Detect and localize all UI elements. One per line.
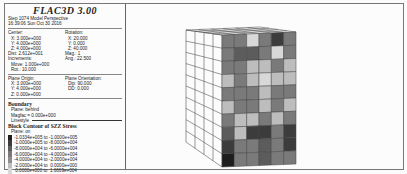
model-zone xyxy=(247,60,259,74)
model-zone xyxy=(284,85,296,99)
model-zone xyxy=(271,33,283,47)
model-zone xyxy=(234,140,246,154)
model-zone xyxy=(284,32,296,46)
model-zone xyxy=(234,60,246,74)
legend-label: -8.0000e+004 to -6.0000e+004 xyxy=(14,146,77,151)
model-zone xyxy=(234,126,246,140)
plane-dd: DD: 0.000 xyxy=(65,86,122,91)
model-zone xyxy=(284,98,296,112)
model-zone xyxy=(259,125,271,139)
model-zone xyxy=(259,33,271,47)
grid-line xyxy=(186,27,260,30)
model-zone xyxy=(222,35,234,49)
legend-swatch xyxy=(8,168,12,174)
model-zone xyxy=(271,46,283,60)
model-zone xyxy=(247,113,259,127)
model-zone xyxy=(222,140,234,154)
model-zone xyxy=(284,124,296,138)
plane-origin-z: Z: 0.000e+000 xyxy=(8,92,65,97)
model-zone xyxy=(234,74,246,88)
model-zone xyxy=(222,74,234,88)
model-zone xyxy=(259,139,271,153)
info-panel: FLAC3D 3.00 Step 1074 Model Perspective … xyxy=(5,4,126,169)
model-zone xyxy=(247,152,259,166)
timestamp: 16:39:06 Sun Oct 30 2016 xyxy=(8,21,122,26)
grid-line xyxy=(204,30,278,33)
model-zone xyxy=(271,125,283,139)
model-zone xyxy=(234,100,246,114)
model-viewport[interactable] xyxy=(126,4,403,169)
model-zone xyxy=(247,86,259,100)
divider xyxy=(8,74,122,75)
model-zone xyxy=(284,138,296,152)
legend-label: -2.0000e+004 to 0.0000e+000 xyxy=(14,163,77,168)
legend-label: -1.0334e+005 to -1.0000e+005 xyxy=(14,135,77,140)
model-zone xyxy=(271,138,283,152)
model-zone xyxy=(259,73,271,87)
model-zone xyxy=(271,85,283,99)
block-model xyxy=(126,4,405,169)
model-zone xyxy=(271,112,283,126)
model-zone xyxy=(247,34,259,48)
model-zone xyxy=(234,34,246,48)
model-zone xyxy=(222,87,234,101)
legend-label: -1.0000e+005 to -8.0000e+004 xyxy=(14,140,77,145)
grid-line xyxy=(195,28,269,31)
model-zone xyxy=(259,112,271,126)
model-zone xyxy=(284,151,296,165)
linestyle-sample xyxy=(32,120,122,121)
model-zone xyxy=(247,100,259,114)
model-zone xyxy=(234,47,246,61)
legend-label: -4.0000e+004 to -2.0000e+004 xyxy=(14,157,77,162)
model-zone xyxy=(234,87,246,101)
app-title: FLAC3D 3.00 xyxy=(8,5,122,16)
model-zone xyxy=(247,47,259,61)
view-params: Center: X: 3.000e+000 Y: 4.000e+000 Z: 4… xyxy=(8,30,122,72)
contour-legend: -1.0334e+005 to -1.0000e+005-1.0000e+005… xyxy=(8,135,122,174)
model-zone xyxy=(222,127,234,141)
legend-label: -6.0000e+004 to -4.0000e+004 xyxy=(14,152,77,157)
model-zone xyxy=(247,126,259,140)
divider xyxy=(8,98,122,99)
model-zone xyxy=(259,99,271,113)
model-zone xyxy=(247,139,259,153)
model-zone xyxy=(271,72,283,86)
model-zone xyxy=(284,72,296,86)
model-zone xyxy=(222,114,234,128)
model-zone xyxy=(234,153,246,167)
model-zone xyxy=(222,48,234,62)
rot-increment: Rot.: 10.000 xyxy=(8,67,65,72)
plot-frame: FLAC3D 3.00 Step 1074 Model Perspective … xyxy=(4,3,404,170)
plane-params: Plane Origin: X: 3.000e+000 Y: 4.000e+00… xyxy=(8,76,122,97)
model-zone xyxy=(222,153,234,167)
ang-increment: Ang.: 22.500 xyxy=(65,56,122,61)
model-zone xyxy=(259,152,271,166)
model-zone xyxy=(247,73,259,87)
model-zone xyxy=(259,59,271,73)
model-zone xyxy=(284,111,296,125)
model-zone xyxy=(271,151,283,165)
model-zone xyxy=(222,61,234,75)
legend-entry: 0.0000e+000 to 1.6669e+004 xyxy=(8,168,122,174)
model-zone xyxy=(284,45,296,59)
model-zone xyxy=(284,58,296,72)
model-zone xyxy=(234,113,246,127)
legend-label: 0.0000e+000 to 1.6669e+004 xyxy=(14,168,77,173)
model-zone xyxy=(259,86,271,100)
model-zone xyxy=(259,46,271,60)
divider xyxy=(8,28,122,29)
model-zone xyxy=(271,59,283,73)
model-zone xyxy=(222,101,234,115)
model-zone xyxy=(271,99,283,113)
